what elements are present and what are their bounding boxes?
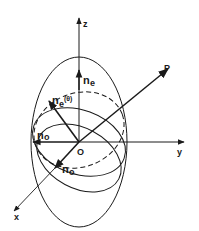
svg-text:o: o [69,167,75,177]
svg-text:o: o [44,132,50,142]
propagation-label: P [164,63,170,73]
ne-label: n e [83,74,95,88]
y-axis-label: y [177,147,182,157]
svg-text:n: n [37,129,44,141]
ne-theta-label: n e (θ) [52,94,72,109]
svg-text:e: e [90,78,95,88]
svg-text:n: n [62,163,69,175]
z-axis-label: z [83,19,88,29]
svg-text:(θ): (θ) [64,95,72,103]
x-axis-label: x [14,212,19,222]
no-bottom-label: n o [62,163,75,177]
origin-label: O [77,147,84,157]
index-ellipsoid-diagram: z y x O P n e n e (θ) n o n o [0,0,199,231]
svg-text:n: n [52,94,59,106]
svg-text:n: n [83,74,90,86]
no-left-label: n o [37,129,50,142]
